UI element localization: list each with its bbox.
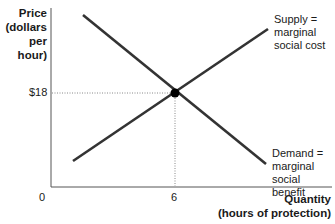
equilibrium-point: [171, 89, 180, 98]
y-axis-title: Price (dollars per hour): [5, 6, 47, 62]
origin-label: 0: [39, 191, 45, 204]
y-axis-title-line: Price: [5, 6, 47, 20]
x-axis-title-line: Quantity: [218, 192, 331, 206]
x-tick-label: 6: [171, 191, 177, 204]
y-axis-title-line: hour): [5, 48, 47, 62]
supply-label: Supply = marginal social cost: [274, 13, 325, 52]
y-axis-title-line: (dollars: [5, 20, 47, 34]
demand-label-line: marginal: [272, 160, 335, 173]
y-axis-title-line: per: [5, 34, 47, 48]
demand-label-line: Demand =: [272, 147, 335, 160]
x-axis-title: Quantity (hours of protection): [218, 192, 331, 220]
supply-label-line: Supply =: [274, 13, 325, 26]
x-axis-title-line: (hours of protection): [218, 206, 331, 220]
supply-label-line: social cost: [274, 39, 325, 52]
supply-label-line: marginal: [274, 26, 325, 39]
y-tick-label: $18: [29, 86, 47, 99]
